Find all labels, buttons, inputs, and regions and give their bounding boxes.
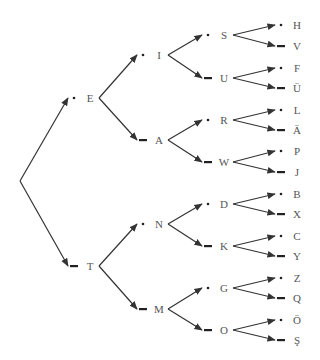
node-k: K: [204, 240, 228, 252]
node-ue: Ü: [277, 82, 301, 94]
edge-arrow: [233, 246, 275, 256]
edge-arrow: [233, 194, 275, 204]
edge-arrow: [233, 278, 275, 288]
dot-icon: [280, 109, 283, 112]
edge-arrow: [233, 204, 275, 214]
edge-arrow: [233, 236, 275, 246]
dot-icon: [280, 235, 283, 238]
letter-label: Ş: [294, 334, 300, 346]
node-h: H: [280, 19, 301, 31]
node-r: R: [207, 114, 229, 126]
letter-label: E: [87, 92, 94, 104]
letter-label: B: [293, 188, 300, 200]
dash-icon: [277, 87, 285, 89]
dash-icon: [277, 255, 285, 257]
morse-code-tree: ETIANMSURWDKGOHVFÜLÄPJBXCYZQÖŞ: [0, 0, 320, 360]
node-l: L: [280, 104, 301, 116]
dot-icon: [207, 34, 210, 37]
node-w: W: [204, 156, 230, 168]
node-o: O: [204, 324, 228, 336]
dash-icon: [204, 77, 212, 79]
edge-arrow: [233, 35, 275, 46]
letter-label: S: [221, 29, 227, 41]
letter-label: U: [220, 72, 228, 84]
edge-arrow: [99, 266, 137, 309]
edge-arrow: [233, 288, 275, 298]
dash-icon: [277, 213, 285, 215]
dot-icon: [142, 54, 145, 57]
letter-label: C: [293, 230, 300, 242]
edge-arrow: [233, 320, 275, 330]
dot-icon: [280, 277, 283, 280]
letter-label: O: [220, 324, 228, 336]
edge-arrow: [168, 224, 202, 246]
node-f: F: [280, 62, 300, 74]
node-x: X: [277, 208, 301, 220]
dot-icon: [207, 119, 210, 122]
edge-arrow: [20, 98, 68, 181]
edge-arrow: [99, 224, 137, 266]
node-b: B: [280, 188, 301, 200]
edge-arrow: [233, 151, 275, 162]
letter-label: K: [220, 240, 228, 252]
node-c: C: [280, 230, 301, 242]
edge-arrow: [99, 55, 137, 98]
node-t: T: [70, 260, 94, 272]
letter-label: L: [294, 104, 301, 116]
letter-label: R: [220, 114, 228, 126]
node-e: E: [73, 92, 94, 104]
edge-arrow: [168, 55, 202, 78]
node-d: D: [207, 198, 228, 210]
letter-label: V: [293, 40, 301, 52]
node-a: A: [139, 134, 163, 146]
edge-arrow: [168, 140, 202, 162]
letter-label: D: [220, 198, 228, 210]
dash-icon: [139, 308, 147, 310]
letter-label: J: [295, 166, 300, 178]
node-i: I: [142, 49, 161, 61]
edge-arrow: [233, 330, 275, 340]
dot-icon: [280, 67, 283, 70]
letter-label: Ä: [293, 124, 301, 136]
dash-icon: [204, 161, 212, 163]
dot-icon: [207, 203, 210, 206]
node-n: N: [142, 218, 163, 230]
dot-icon: [280, 319, 283, 322]
letter-label: T: [87, 260, 94, 272]
edge-arrow: [233, 162, 275, 172]
node-u: U: [204, 72, 228, 84]
dot-icon: [207, 287, 210, 290]
letter-label: Z: [294, 272, 301, 284]
letter-label: W: [219, 156, 230, 168]
edge-arrow: [168, 288, 202, 309]
node-j: J: [277, 166, 300, 178]
dash-icon: [277, 129, 285, 131]
letter-label: I: [157, 49, 161, 61]
edge-arrow: [233, 68, 275, 78]
tree-nodes: ETIANMSURWDKGOHVFÜLÄPJBXCYZQÖŞ: [70, 19, 301, 346]
edge-arrow: [233, 78, 275, 88]
letter-label: H: [293, 19, 301, 31]
letter-label: Y: [293, 250, 301, 262]
node-z: Z: [280, 272, 301, 284]
edge-arrow: [168, 309, 202, 330]
dot-icon: [280, 193, 283, 196]
node-ae: Ä: [277, 124, 301, 136]
node-oe: Ö: [280, 314, 301, 326]
dot-icon: [142, 223, 145, 226]
letter-label: N: [155, 218, 163, 230]
tree-edges: [20, 25, 275, 340]
letter-label: M: [154, 303, 164, 315]
letter-label: F: [294, 62, 300, 74]
dash-icon: [277, 171, 285, 173]
node-y: Y: [277, 250, 301, 262]
node-sh: Ş: [277, 334, 300, 346]
dash-icon: [277, 339, 285, 341]
edge-arrow: [233, 120, 275, 130]
edge-arrow: [233, 110, 275, 120]
node-g: G: [207, 282, 228, 294]
edge-arrow: [168, 35, 202, 55]
node-m: M: [139, 303, 164, 315]
dash-icon: [70, 265, 78, 267]
edge-arrow: [168, 204, 202, 224]
